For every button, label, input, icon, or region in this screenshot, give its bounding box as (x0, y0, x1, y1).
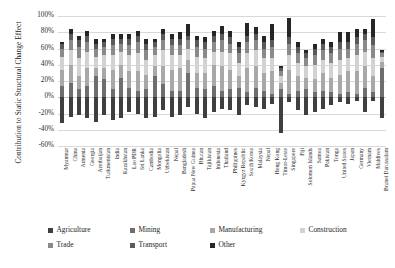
bar-segment (313, 44, 317, 49)
bar (329, 16, 333, 146)
bar (363, 16, 367, 146)
bar-segment (380, 50, 384, 52)
bar-segment (313, 92, 317, 97)
x-axis-tick-label: Bangladesh (182, 148, 188, 174)
bar (321, 16, 325, 146)
bar-segment (69, 50, 73, 65)
bar-segment (195, 97, 199, 113)
bar-segment (296, 63, 300, 76)
x-axis-tick-label: Lao PDR (132, 148, 138, 169)
y-axis-tick-label: -60% (22, 142, 54, 149)
bar (102, 16, 106, 146)
bar-segment (346, 32, 350, 42)
bar-segment (186, 73, 190, 97)
bar-segment (69, 83, 73, 98)
bar (262, 16, 266, 146)
bars-container (58, 16, 386, 146)
x-axis-tick-label: India (115, 148, 121, 160)
legend-item[interactable]: Manufacturing (210, 226, 300, 234)
legend-item[interactable]: Transport (130, 241, 210, 249)
bar-segment (203, 89, 207, 97)
bar-segment (136, 71, 140, 91)
bar-segment (85, 68, 89, 86)
bar-segment (94, 97, 98, 121)
bar-segment (270, 47, 274, 58)
x-axis-tick-label: Thailand (224, 148, 230, 168)
bar-segment (153, 42, 157, 47)
bar-segment (94, 49, 98, 57)
bar-segment (346, 97, 350, 104)
bar (77, 16, 81, 146)
legend-item[interactable]: Mining (130, 226, 210, 234)
bar-segment (346, 42, 350, 49)
bar-segment (144, 60, 148, 75)
bar-segment (329, 78, 333, 93)
bar-segment (287, 94, 291, 97)
bar-segment (69, 97, 73, 117)
legend-swatch-icon (48, 228, 53, 233)
x-axis-tick-label: Uzbekistan (165, 148, 171, 173)
bar-segment (363, 88, 367, 98)
legend-item[interactable]: Agriculture (48, 226, 130, 234)
legend-item[interactable]: Construction (300, 226, 378, 234)
bar-segment (329, 47, 333, 54)
bar-segment (329, 53, 333, 63)
legend-swatch-icon (210, 228, 215, 233)
bar-segment (355, 37, 359, 44)
legend-label: Other (219, 241, 236, 249)
bar-segment (119, 65, 123, 78)
bar-segment (161, 50, 165, 66)
bar-segment (119, 44, 123, 52)
bar-segment (355, 29, 359, 37)
bar-segment (371, 92, 375, 97)
bar-segment (346, 92, 350, 97)
bar-segment (346, 49, 350, 59)
legend: AgricultureMiningManufacturingConstructi… (48, 226, 378, 256)
bar-segment (178, 32, 182, 39)
bar-segment (220, 91, 224, 98)
bar (237, 16, 241, 146)
bar-segment (371, 58, 375, 76)
bar-segment (170, 55, 174, 70)
bar-segment (102, 79, 106, 97)
legend-label: Construction (309, 226, 347, 234)
x-axis-tick-label: Sri Lanka (140, 148, 146, 170)
bar-segment (161, 84, 165, 97)
x-axis-tick-label: Philippines (233, 148, 239, 173)
bar-segment (136, 91, 140, 98)
bar (119, 16, 123, 146)
bar-segment (170, 45, 174, 55)
legend-swatch-icon (48, 243, 53, 248)
bar-segment (262, 73, 266, 91)
bar-segment (127, 97, 131, 112)
bar-segment (371, 19, 375, 37)
legend-item[interactable]: Trade (48, 241, 130, 249)
bar-segment (237, 47, 241, 54)
x-axis-tick-label: Azerbaijan (98, 148, 104, 173)
x-axis-tick-label: Cambodia (149, 148, 155, 171)
x-axis-tick-label: Kazakhstan (123, 148, 129, 174)
bar-segment (220, 26, 224, 34)
bar-segment (355, 55, 359, 71)
legend-item[interactable]: Other (210, 241, 300, 249)
bar-segment (228, 70, 232, 90)
x-axis-tick-label: Indonesia (216, 148, 222, 170)
bar-segment (371, 45, 375, 58)
bar-segment (119, 52, 123, 65)
bar (111, 16, 115, 146)
bar-segment (304, 78, 308, 89)
bar (338, 16, 342, 146)
bar-segment (279, 76, 283, 83)
bar-segment (321, 60, 325, 73)
bar (85, 16, 89, 146)
bar-segment (270, 97, 274, 104)
bar-segment (245, 42, 249, 53)
bar-segment (262, 36, 266, 43)
bar-segment (144, 50, 148, 60)
bar-segment (186, 40, 190, 48)
bar-segment (111, 70, 115, 90)
bar-segment (127, 88, 131, 98)
legend-row-1: AgricultureMiningManufacturingConstructi… (48, 226, 378, 234)
bar-segment (279, 66, 283, 68)
bar (195, 16, 199, 146)
